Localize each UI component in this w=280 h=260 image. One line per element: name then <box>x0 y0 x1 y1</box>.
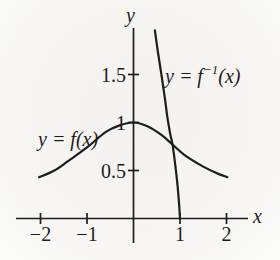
y-tick-label: 0.5 <box>101 160 126 182</box>
x-tick-label: −1 <box>76 223 97 245</box>
x-tick-label: 2 <box>222 223 232 245</box>
y-tick-label: 1.5 <box>101 64 126 86</box>
x-tick-label: 1 <box>175 223 185 245</box>
f-inverse-curve <box>155 30 180 218</box>
plot-canvas: −2−1120.511.5 <box>0 0 280 260</box>
x-tick-label: −2 <box>30 223 51 245</box>
inverse-function-figure: −2−1120.511.5 y x y = f(x) y = f−1(x) <box>0 0 280 260</box>
